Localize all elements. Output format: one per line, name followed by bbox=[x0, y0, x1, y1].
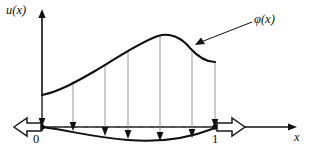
axes-group bbox=[16, 9, 297, 131]
phi-annotation-leader bbox=[195, 22, 252, 45]
figure-root: u(x) x φ(x) 0 1 bbox=[0, 0, 310, 154]
phi-curve bbox=[42, 35, 215, 95]
y-axis-label: u(x) bbox=[6, 4, 26, 17]
leader-line bbox=[201, 22, 252, 42]
origin-tick-label: 0 bbox=[33, 133, 39, 146]
unit-tick-label: 1 bbox=[212, 133, 218, 146]
right-block-arrow bbox=[217, 118, 245, 136]
drop-arrowhead bbox=[125, 130, 132, 139]
y-axis-arrowhead bbox=[38, 9, 45, 18]
phi-function-label: φ(x) bbox=[254, 13, 275, 26]
drop-arrowhead bbox=[102, 127, 109, 136]
x-axis-label: x bbox=[294, 131, 300, 144]
